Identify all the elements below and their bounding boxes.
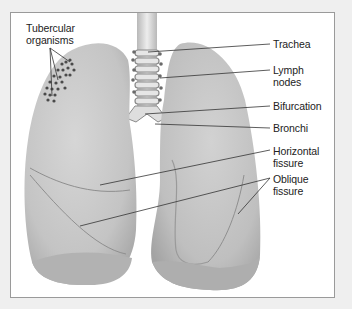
label-tubercular-organisms: Tubercular organisms <box>26 22 75 46</box>
label-oblique-fissure: Oblique fissure <box>273 173 309 197</box>
label-horizontal-fissure: Horizontal fissure <box>273 145 319 169</box>
label-bronchi: Bronchi <box>273 122 308 134</box>
trachea <box>126 13 166 122</box>
right-lung <box>151 42 260 290</box>
label-trachea: Trachea <box>273 38 310 50</box>
label-lymph-nodes: Lymph nodes <box>273 64 304 88</box>
label-bifurcation: Bifurcation <box>273 100 322 112</box>
left-lung <box>25 43 137 285</box>
